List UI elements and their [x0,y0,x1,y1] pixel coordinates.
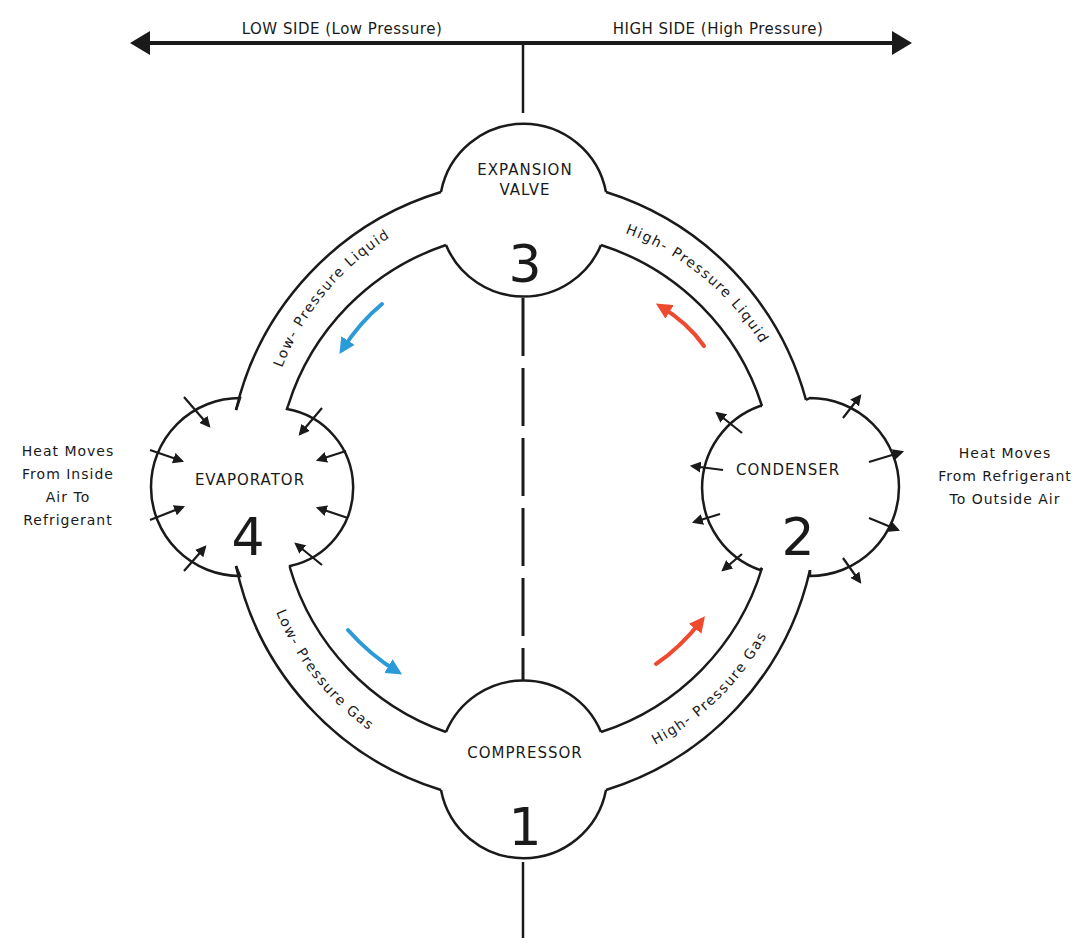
expansion-valve-label-1: EXPANSION [477,161,572,179]
compressor: COMPRESSOR 1 [441,680,606,858]
condenser: CONDENSER 2 [692,396,902,582]
svg-text:From Inside: From Inside [22,466,114,482]
flow-arrow-low-gas-icon [348,630,398,672]
flow-arrow-high-gas-icon [656,620,702,664]
compressor-label: COMPRESSOR [467,744,582,762]
low-side-label: LOW SIDE (Low Pressure) [242,20,443,38]
flow-arrow-low-liquid-icon [342,304,382,350]
expansion-valve: EXPANSION VALVE 3 [441,124,606,297]
high-side-label: HIGH SIDE (High Pressure) [613,20,824,38]
svg-text:Heat Moves: Heat Moves [22,443,115,459]
expansion-valve-label-2: VALVE [499,181,550,199]
svg-text:Refrigerant: Refrigerant [23,512,112,528]
pipe-label-high-pressure-gas: High- Pressure Gas [649,628,770,748]
condenser-heat-note: Heat Moves From Refrigerant To Outside A… [938,445,1072,507]
svg-text:Air To: Air To [46,489,90,505]
refrigeration-cycle-diagram: EXPANSION VALVE 3 COMPRESSOR 1 EVAPORATO… [0,0,1083,952]
svg-text:Heat Moves: Heat Moves [959,445,1052,461]
left-arrowhead-icon [130,31,150,55]
condenser-number: 2 [781,507,814,567]
svg-text:From Refrigerant: From Refrigerant [938,468,1072,484]
condenser-label: CONDENSER [736,461,840,479]
flow-arrow-high-liquid-icon [660,306,704,346]
evaporator-number: 4 [231,507,264,567]
compressor-number: 1 [508,797,541,857]
right-arrowhead-icon [892,31,912,55]
svg-text:To Outside Air: To Outside Air [949,491,1061,507]
pressure-axis [130,31,912,113]
expansion-valve-number: 3 [508,234,541,294]
evaporator-label: EVAPORATOR [195,471,305,489]
evaporator: EVAPORATOR 4 [150,397,353,576]
evaporator-heat-note: Heat Moves From Inside Air To Refrigeran… [22,443,115,528]
pipe-label-low-pressure-gas: Low- Pressure Gas [273,607,377,733]
